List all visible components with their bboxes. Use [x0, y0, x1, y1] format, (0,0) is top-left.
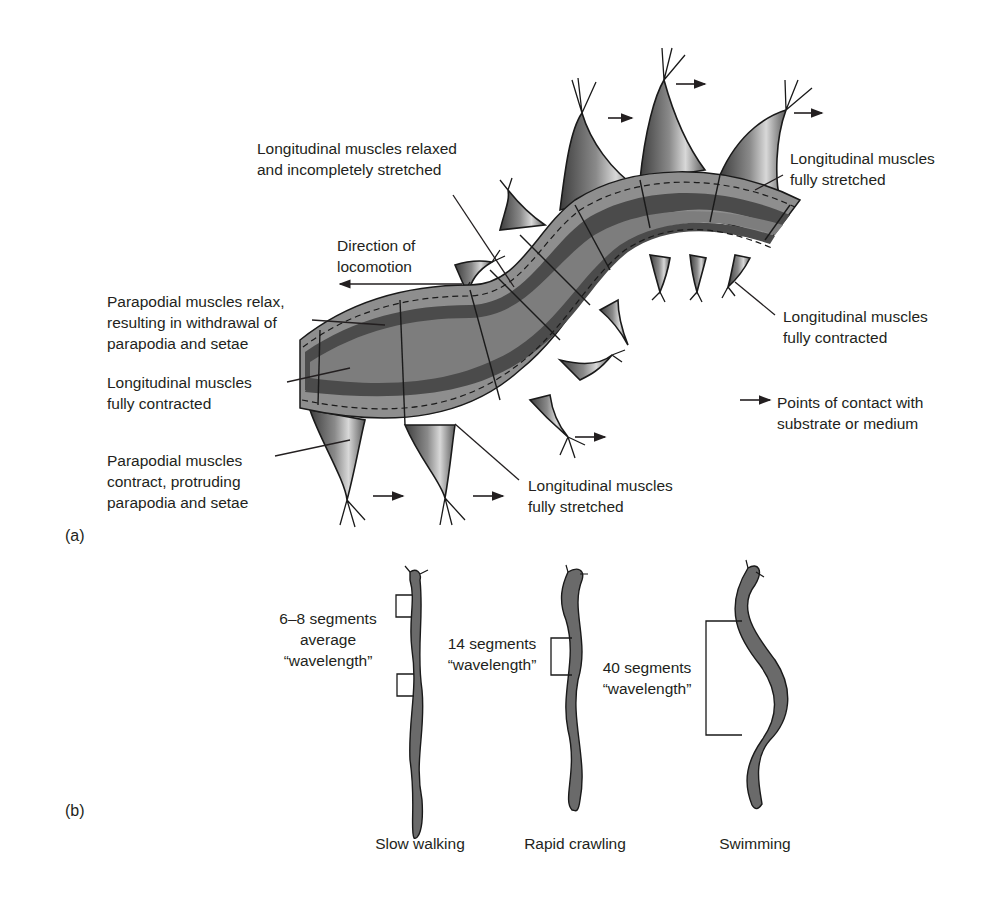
legend-contact-points: Points of contact with substrate or medi… — [777, 392, 923, 434]
label-relaxed-incomplete: Longitudinal muscles relaxed and incompl… — [257, 138, 457, 180]
label-long-stretched-bottom: Longitudinal muscles fully stretched — [528, 475, 673, 517]
label-direction-of-locomotion: Direction of locomotion — [337, 235, 415, 277]
panel-b-setae — [405, 560, 764, 577]
label-parapodial-relax: Parapodial muscles relax, resulting in w… — [107, 291, 284, 354]
label-long-contracted-right: Longitudinal muscles fully contracted — [783, 306, 928, 348]
panel-b-worms — [410, 566, 788, 838]
worm-body — [300, 172, 800, 425]
label-long-stretched-top: Longitudinal muscles fully stretched — [790, 148, 935, 190]
caption-rapid-crawling: Rapid crawling — [510, 833, 640, 854]
label-long-contracted-left: Longitudinal muscles fully contracted — [107, 372, 252, 414]
caption-swimming: Swimming — [700, 833, 810, 854]
annotation-swimming: 40 segments “wavelength” — [591, 657, 703, 699]
annotation-slow-walking: 6–8 segments average “wavelength” — [265, 608, 391, 671]
panel-a-label: (a) — [65, 525, 85, 546]
label-parapodial-contract: Parapodial muscles contract, protruding … — [107, 450, 248, 513]
panel-b-label: (b) — [65, 800, 85, 821]
annotation-rapid-crawling: 14 segments “wavelength” — [436, 633, 548, 675]
caption-slow-walking: Slow walking — [355, 833, 485, 854]
